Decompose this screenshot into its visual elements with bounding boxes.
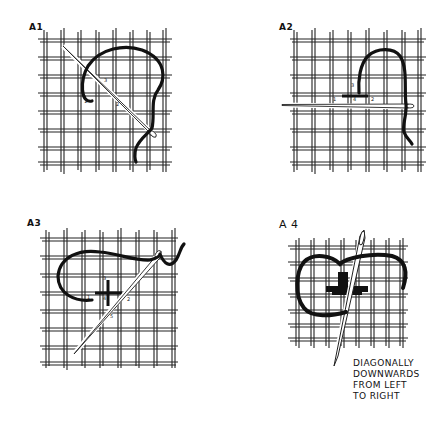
caption-line-2: DOWNWARDS (353, 369, 420, 380)
step-number-2: 2 (127, 296, 130, 302)
panel-a2: A2 (222, 0, 444, 216)
panel-a3: A3 (0, 216, 222, 433)
step-number-5: 5 (110, 313, 113, 319)
caption-line-4: TO RIGHT (353, 391, 420, 402)
panel-a4: A 4 (222, 216, 444, 433)
step-number-3: 3 (103, 275, 106, 281)
step-number-1: 1 (87, 294, 90, 300)
step-number-3: 3 (104, 77, 107, 83)
caption-line-3: FROM LEFT (353, 380, 420, 391)
caption-line-1: DIAGONALLY (353, 358, 420, 369)
needle-icon (334, 230, 365, 366)
step-number-3: 3 (351, 82, 354, 88)
stitch-block (326, 272, 368, 295)
panel-a1: A1 (0, 0, 222, 216)
canvas-grid-a3: 1 2 3 4 5 (0, 216, 222, 433)
step-number-4: 4 (103, 295, 106, 301)
step-number-1: 1 (333, 96, 336, 102)
step-number-2: 2 (371, 96, 374, 102)
grid-lines (38, 28, 172, 174)
step-number-1: 1 (84, 98, 87, 104)
step-number-2: 2 (116, 101, 119, 107)
instruction-caption: DIAGONALLY DOWNWARDS FROM LEFT TO RIGHT (353, 358, 420, 402)
canvas-grid-a2: 1 2 3 4 (222, 0, 444, 216)
canvas-grid-a1: 1 2 3 (0, 0, 222, 216)
step-number-4: 4 (353, 96, 356, 102)
